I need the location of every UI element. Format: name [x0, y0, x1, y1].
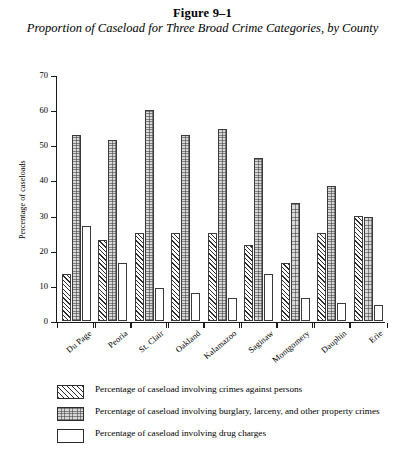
- bar-persons: [62, 274, 71, 321]
- y-axis-tick: 10: [51, 287, 56, 288]
- bar-persons: [317, 233, 326, 321]
- legend-swatch-drug: [57, 429, 84, 443]
- bar-group: [208, 75, 237, 321]
- bar-property: [218, 129, 227, 321]
- bar-drug: [228, 298, 237, 321]
- bar-group: [171, 75, 200, 321]
- figure-container: Figure 9–1 Proportion of Caseload for Th…: [0, 0, 405, 460]
- x-axis-label: Du Page: [64, 328, 93, 355]
- y-axis-tick: 60: [51, 111, 56, 112]
- y-axis-line: [56, 76, 57, 323]
- bar-property: [254, 158, 263, 321]
- bar-group: [62, 75, 91, 321]
- bar-drug: [191, 293, 200, 321]
- bar-persons: [244, 245, 253, 321]
- bar-drug: [301, 298, 310, 321]
- bar-property: [145, 110, 154, 321]
- chart-legend: Percentage of caseload involving crimes …: [57, 384, 397, 450]
- y-axis-tick-label: 30: [40, 211, 49, 222]
- y-axis-tick: 20: [51, 252, 56, 253]
- y-axis-tick-label: 40: [40, 175, 49, 186]
- bar-group: [281, 75, 310, 321]
- x-axis-label: Peoria: [106, 328, 130, 350]
- legend-swatch-property: [57, 407, 84, 421]
- x-axis-label: Montgomery: [270, 328, 311, 365]
- bar-drug: [118, 263, 127, 321]
- y-axis-tick: 40: [51, 181, 56, 182]
- bar-group: [354, 75, 383, 321]
- x-axis-line: [56, 322, 385, 323]
- bar-group: [98, 75, 127, 321]
- bar-property: [181, 135, 190, 321]
- bar-persons: [354, 216, 363, 321]
- x-axis-label: Oakland: [173, 328, 202, 355]
- bar-persons: [135, 233, 144, 321]
- y-axis-tick-label: 20: [40, 246, 49, 257]
- y-axis-tick: 0: [51, 322, 56, 323]
- legend-item: Percentage of caseload involving crimes …: [57, 384, 397, 399]
- bar-persons: [98, 240, 107, 321]
- y-axis-tick: 50: [51, 146, 56, 147]
- legend-item: Percentage of caseload involving drug ch…: [57, 428, 397, 443]
- bar-persons: [281, 263, 290, 321]
- legend-swatch-persons: [57, 385, 84, 399]
- plot-area: Percentage of caseloads 010203040506070 …: [0, 0, 405, 380]
- y-axis-tick: 70: [51, 76, 56, 77]
- x-axis-label: St. Clair: [137, 328, 166, 354]
- x-axis-label: Dauphin: [319, 328, 348, 355]
- bar-persons: [171, 233, 180, 321]
- chart-axes: 010203040506070: [56, 76, 384, 322]
- bar-drug: [82, 226, 91, 321]
- x-axis-label: Saginaw: [246, 328, 275, 355]
- y-axis-tick: 30: [51, 217, 56, 218]
- legend-item: Percentage of caseload involving burglar…: [57, 406, 397, 421]
- bar-property: [364, 217, 373, 321]
- bar-drug: [374, 305, 383, 321]
- bar-persons: [208, 233, 217, 321]
- bar-drug: [264, 274, 273, 321]
- y-axis-tick-label: 60: [40, 105, 49, 116]
- bar-property: [327, 186, 336, 321]
- y-axis-tick-label: 70: [40, 70, 49, 81]
- bar-property: [108, 140, 117, 321]
- bar-group: [135, 75, 164, 321]
- x-axis-label: Erie: [367, 328, 385, 345]
- y-axis-label: Percentage of caseloads: [18, 130, 32, 270]
- bar-group: [244, 75, 273, 321]
- bar-property: [291, 203, 300, 321]
- bar-drug: [155, 288, 164, 321]
- bar-drug: [337, 303, 346, 321]
- y-axis-tick-label: 10: [40, 281, 49, 292]
- legend-label: Percentage of caseload involving burglar…: [95, 406, 380, 418]
- legend-label: Percentage of caseload involving drug ch…: [95, 428, 266, 440]
- x-axis-labels: Du PagePeoriaSt. ClairOaklandKalamazooSa…: [56, 324, 396, 380]
- bar-group: [317, 75, 346, 321]
- bar-property: [72, 135, 81, 321]
- y-axis-tick-label: 0: [44, 316, 48, 327]
- legend-label: Percentage of caseload involving crimes …: [95, 384, 302, 396]
- y-axis-tick-label: 50: [40, 140, 49, 151]
- x-axis-label: Kalamazoo: [202, 328, 239, 361]
